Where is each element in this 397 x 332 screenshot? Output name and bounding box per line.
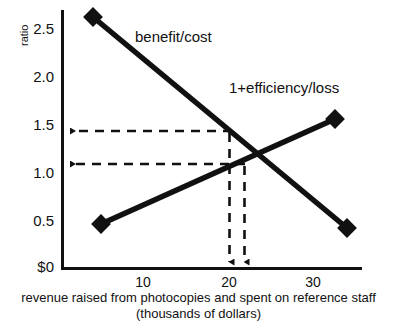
series-label-efficiency-loss: 1+efficiency/loss xyxy=(229,79,339,96)
series-label-benefit-cost: benefit/cost xyxy=(135,28,212,45)
series-benefit-cost-line xyxy=(93,17,347,228)
y-tick-label-2-0: 2.0 xyxy=(14,68,54,85)
y-tick-label-0: $0 xyxy=(14,258,54,275)
y-tick-label-2-5: 2.5 xyxy=(14,20,54,37)
x-axis-caption-line1: revenue raised from photocopies and spen… xyxy=(0,290,397,305)
x-tick-label-20: 20 xyxy=(209,274,249,290)
series-efficiency-loss-line xyxy=(101,119,335,224)
chart-figure: ratio 2.5 2.0 1.5 1.0 0.5 $0 10 20 30 be… xyxy=(0,0,397,332)
series-efficiency-loss-marker-end xyxy=(325,109,345,129)
x-axis-caption-line2: (thousands of dollars) xyxy=(0,306,397,321)
y-tick-label-1-0: 1.0 xyxy=(14,164,54,181)
series-benefit-cost xyxy=(83,7,357,238)
x-tick-label-10: 10 xyxy=(123,274,163,290)
series-efficiency-loss xyxy=(91,109,345,234)
y-tick-label-1-5: 1.5 xyxy=(14,116,54,133)
chart-plot-area xyxy=(0,0,397,332)
axis-lines xyxy=(61,10,362,269)
y-tick-label-0-5: 0.5 xyxy=(14,212,54,229)
series-efficiency-loss-marker-start xyxy=(91,214,111,234)
x-tick-label-30: 30 xyxy=(293,274,333,290)
